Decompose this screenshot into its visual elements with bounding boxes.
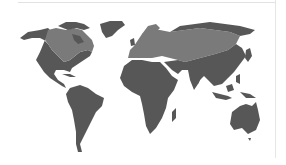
- region-indonesia: [212, 92, 232, 100]
- region-australia: [230, 102, 260, 134]
- region-borneo: [226, 84, 234, 92]
- region-philippines: [236, 74, 240, 84]
- region-greenland: [100, 21, 125, 38]
- region-japan: [245, 48, 252, 62]
- region-africa: [120, 60, 178, 134]
- region-madagascar: [172, 108, 176, 122]
- world-map: World map: [0, 0, 286, 165]
- region-tasmania: [248, 138, 251, 141]
- region-caribbean: [62, 74, 76, 77]
- region-south-america: [66, 85, 104, 152]
- region-uk: [130, 38, 135, 46]
- region-new-guinea: [240, 92, 256, 98]
- region-india: [188, 70, 202, 90]
